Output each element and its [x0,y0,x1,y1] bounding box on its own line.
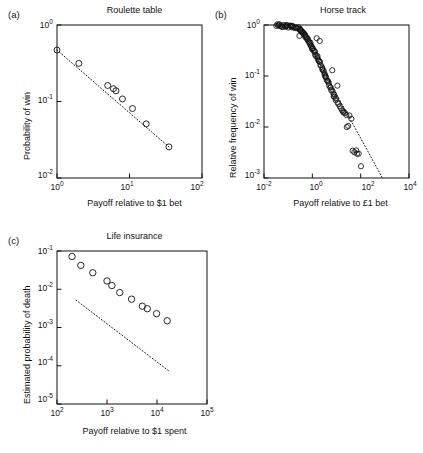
panel-c-point [69,253,75,259]
panel-c-point [78,262,84,268]
panel-c-point [164,318,170,324]
panel-b-point [335,83,340,88]
panel-c-point [153,310,159,316]
panel-c-point [139,303,145,309]
panel-c-frame [57,251,207,404]
panel-b-point [358,164,363,169]
panel-c-point [144,306,150,312]
panel-c-point [128,296,134,302]
panel-c-point [90,270,96,276]
panel-c-point [109,282,115,288]
panel-c-point [117,289,123,295]
figure-gambling-payoff-plots: (a) Roulette table Probability of win Pa… [0,0,423,453]
panel-b-frame [264,25,409,178]
panel-b-point [330,68,335,73]
panel-c-plot-area [0,0,230,453]
panel-b-point [346,123,351,128]
